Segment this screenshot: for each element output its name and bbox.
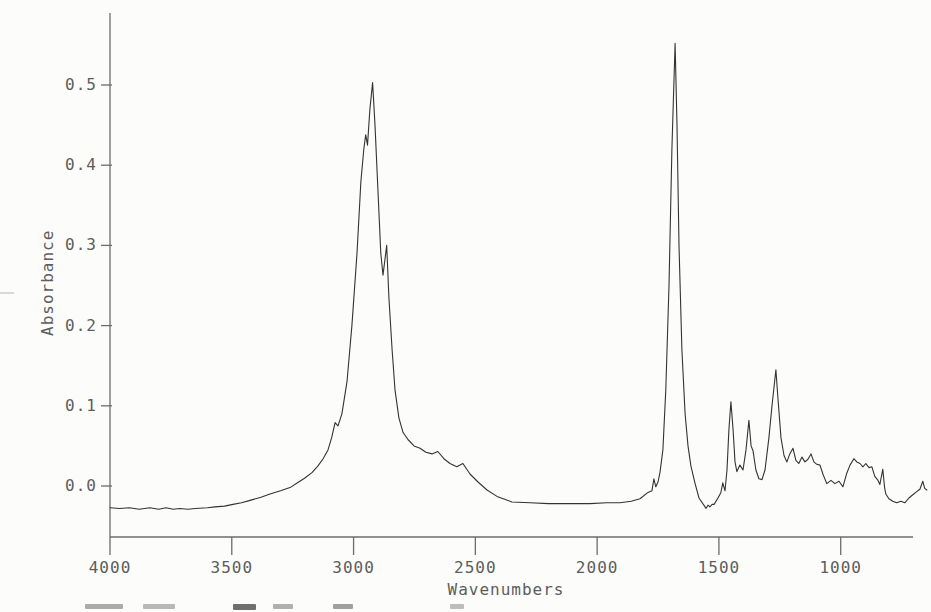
cropped-caption-fragment [233,604,256,610]
axes [110,13,913,537]
cropped-caption-fragment [143,604,175,609]
spectrum-trace [110,43,927,509]
y-tick-label: 0.0 [65,476,97,495]
x-tick-label: 2500 [454,558,497,577]
x-axis-title: Wavenumbers [446,580,566,599]
y-tick-label: 0.1 [65,396,97,415]
y-axis-title: Absorbance [38,230,57,336]
spectrum-line [110,43,927,509]
y-tick-label: 0.2 [65,316,97,335]
x-tick-label: 1000 [819,558,862,577]
x-tick-label: 1500 [698,558,741,577]
ir-spectrum-plot: 4000350030002500200015001000 0.00.10.20.… [0,0,931,612]
y-tick-labels: 0.00.10.20.30.40.5 [65,75,97,495]
y-tick-label: 0.4 [65,155,97,174]
cropped-caption-fragment [450,604,464,609]
y-tick-label: 0.5 [65,75,97,94]
x-tick-label: 3000 [332,558,375,577]
x-axis-ticks [110,537,841,555]
cropped-caption-fragment [333,604,353,609]
cropped-caption-fragment [85,604,123,609]
x-tick-labels: 4000350030002500200015001000 [89,558,862,577]
y-tick-label: 0.3 [65,235,97,254]
x-tick-label: 4000 [89,558,132,577]
x-tick-label: 2000 [576,558,619,577]
scan-artifact [0,292,14,294]
cropped-caption-fragment [273,604,293,609]
scanned-spectrum-page: 4000350030002500200015001000 0.00.10.20.… [0,0,931,612]
x-tick-label: 3500 [211,558,254,577]
